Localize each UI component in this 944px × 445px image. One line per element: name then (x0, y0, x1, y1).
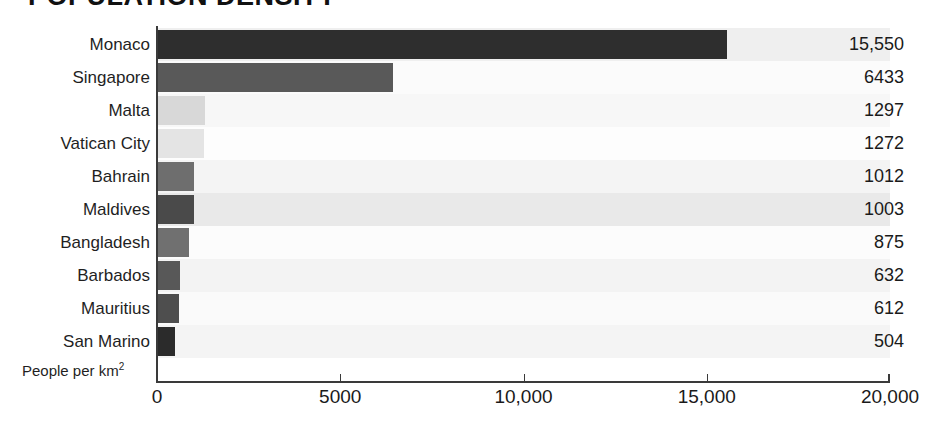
bar-value-label: 1272 (864, 127, 904, 160)
y-axis-label: Vatican City (2, 127, 150, 160)
bar-value-label: 15,550 (849, 28, 904, 61)
y-axis-label: Monaco (2, 28, 150, 61)
bar-chart: POPULATION DENSITY Monaco Singapore Malt… (0, 0, 944, 445)
value-label-slot: 632 (760, 259, 904, 292)
bar[interactable] (157, 228, 189, 257)
y-axis-label-slot: San Marino (0, 325, 150, 358)
bar[interactable] (157, 327, 175, 356)
bar[interactable] (157, 129, 204, 158)
bar[interactable] (157, 63, 393, 92)
y-axis-label: Barbados (2, 259, 150, 292)
x-axis-tick (707, 374, 708, 382)
value-label-slot: 1003 (760, 193, 904, 226)
y-axis-label-slot: Malta (0, 94, 150, 127)
bar-value-labels: 15,550 6433 1297 1272 1012 1003 875 632 … (760, 28, 904, 358)
bar-value-label: 1003 (864, 193, 904, 226)
x-axis-title-text: People per km (22, 362, 119, 379)
y-axis-line (156, 26, 158, 382)
bar[interactable] (157, 162, 194, 191)
y-axis-label: Bahrain (2, 160, 150, 193)
value-label-slot: 1012 (760, 160, 904, 193)
y-axis-label: Maldives (2, 193, 150, 226)
y-axis-label-slot: Singapore (0, 61, 150, 94)
y-axis-label: Mauritius (2, 292, 150, 325)
bar[interactable] (157, 96, 205, 125)
bar[interactable] (157, 294, 179, 323)
y-axis-label-slot: Mauritius (0, 292, 150, 325)
value-label-slot: 1297 (760, 94, 904, 127)
y-axis-label-slot: Monaco (0, 28, 150, 61)
bar-value-label: 1297 (864, 94, 904, 127)
bar-value-label: 612 (874, 292, 904, 325)
x-axis-tick-label: 10,000 (494, 386, 552, 408)
y-axis-label-slot: Bangladesh (0, 226, 150, 259)
y-axis-label-slot: Barbados (0, 259, 150, 292)
bar[interactable] (157, 261, 180, 290)
chart-title: POPULATION DENSITY (28, 0, 337, 12)
bar-value-label: 6433 (864, 61, 904, 94)
y-axis-label: Bangladesh (2, 226, 150, 259)
y-axis-label: Malta (2, 94, 150, 127)
value-label-slot: 1272 (760, 127, 904, 160)
y-axis-category-labels: Monaco Singapore Malta Vatican City Bahr… (0, 28, 150, 358)
x-axis-title-superscript: 2 (119, 361, 125, 372)
value-label-slot: 612 (760, 292, 904, 325)
x-axis-title: People per km2 (22, 361, 124, 379)
x-axis-endcap (888, 374, 890, 383)
x-axis-tick-label: 5000 (319, 386, 361, 408)
value-label-slot: 6433 (760, 61, 904, 94)
bar[interactable] (157, 30, 727, 59)
x-axis-tick-label: 0 (152, 386, 163, 408)
value-label-slot: 875 (760, 226, 904, 259)
value-label-slot: 504 (760, 325, 904, 358)
x-axis-tick-label: 20,000 (861, 386, 919, 408)
bar-value-label: 875 (874, 226, 904, 259)
bar[interactable] (157, 195, 194, 224)
bar-value-label: 632 (874, 259, 904, 292)
value-label-slot: 15,550 (760, 28, 904, 61)
bar-value-label: 1012 (864, 160, 904, 193)
y-axis-label: Singapore (2, 61, 150, 94)
y-axis-label-slot: Vatican City (0, 127, 150, 160)
x-axis-tick (340, 374, 341, 382)
x-axis-tick (524, 374, 525, 382)
y-axis-label-slot: Bahrain (0, 160, 150, 193)
x-axis-tick-label: 15,000 (678, 386, 736, 408)
bar-value-label: 504 (874, 325, 904, 358)
y-axis-label: San Marino (2, 325, 150, 358)
y-axis-label-slot: Maldives (0, 193, 150, 226)
